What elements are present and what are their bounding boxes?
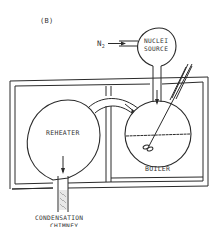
boiler-vessel [125, 101, 191, 167]
nuclei-source-label-line1: NUCLEI [144, 37, 168, 44]
nuclei-source-label-line2: SOURCE [144, 45, 168, 52]
nuclei-condensation-apparatus-diagram: (B) REHEATER CONDENSATION CHIMNEY [0, 0, 219, 227]
reheater-label: REHEATER [46, 129, 80, 137]
chimney-label-line2: CHIMNEY [50, 222, 78, 227]
n2-label: N2 [97, 39, 105, 49]
chimney-label-line1: CONDENSATION [35, 214, 83, 221]
boiler-label: BOILER [145, 165, 170, 173]
panel-label: (B) [40, 17, 54, 25]
n2-inlet-tube [108, 41, 138, 46]
condensation-chimney [58, 176, 68, 212]
